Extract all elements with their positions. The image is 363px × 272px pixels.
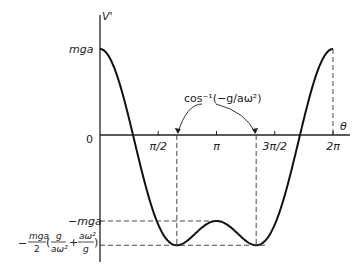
x-axis-label: θ [340, 120, 347, 133]
annotation-arrow-left [178, 104, 202, 133]
origin-label: 0 [86, 133, 93, 146]
x-tick-label: π [213, 140, 220, 153]
y-axis-label: V' [102, 10, 113, 23]
min-t1-num: g [56, 231, 62, 241]
y-tick-mga: mga [69, 43, 94, 56]
y-tick-neg-mga: −mga [68, 215, 102, 228]
arrowhead-right [252, 128, 258, 134]
x-tick-label: 3π/2 [263, 140, 287, 153]
min-t2-den: g [83, 244, 89, 254]
min-paren-open: ( [46, 236, 50, 249]
x-tick-label: 2π [326, 140, 340, 153]
annotation-arccos: cos⁻¹(−g/aω²) [184, 92, 262, 105]
x-ticks: π/2π3π/22π [150, 131, 341, 153]
axes [100, 15, 350, 262]
min-paren-close: ) [94, 236, 98, 249]
min-plus: + [69, 236, 78, 249]
y-tick-min-value: − mga 2 ( g aω² + aω² g ) [18, 231, 98, 254]
potential-chart: π/2π3π/22π V' θ 0 mga −mga cos⁻¹(−g/aω²)… [0, 0, 363, 272]
annotation-arrow-right [216, 104, 255, 133]
arrowhead-left [175, 128, 181, 134]
min-prefix: − [18, 237, 27, 250]
min-t1-den: aω² [51, 244, 68, 254]
x-tick-label: π/2 [150, 140, 167, 153]
min-frac-den: 2 [34, 244, 40, 254]
